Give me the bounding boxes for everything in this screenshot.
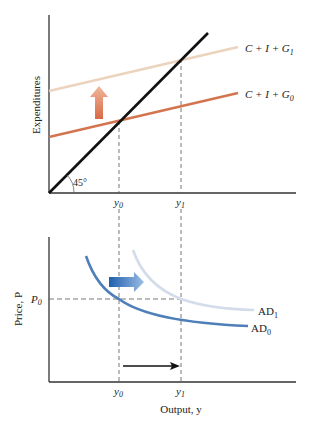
top-y0-tick-label: y0 <box>113 196 123 210</box>
bottom-x-axis-label: Output, y <box>160 403 202 415</box>
bottom-y-axis-label: Price, P <box>12 292 24 326</box>
forty-five-degree-line <box>49 33 208 193</box>
bottom-y1-tick-label: y1 <box>175 385 185 399</box>
top-panel: 45° Expenditures C + I + G1 C + I + G0 y… <box>30 15 296 210</box>
bottom-y0-tick-label: y0 <box>113 385 123 399</box>
bottom-panel: AD1 AD0 P0 Price, P y0 y1 Output, y <box>12 237 296 415</box>
top-y-axis-label: Expenditures <box>30 76 42 134</box>
cig0-label: C + I + G0 <box>245 88 294 103</box>
up-shift-arrow-icon <box>90 86 108 119</box>
ad0-label: AD0 <box>251 322 271 337</box>
cig1-label: C + I + G1 <box>245 42 294 57</box>
figure: 45° Expenditures C + I + G1 C + I + G0 y… <box>0 0 312 431</box>
ad1-label: AD1 <box>258 305 278 320</box>
right-shift-arrow-icon <box>109 272 144 292</box>
top-y1-tick-label: y1 <box>175 196 185 210</box>
angle-label: 45° <box>73 177 87 188</box>
ad1-curve <box>133 250 254 310</box>
p0-tick-label: P0 <box>30 293 42 307</box>
cig1-line <box>49 47 238 91</box>
